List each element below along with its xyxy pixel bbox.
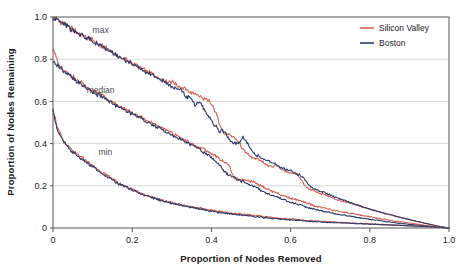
x-tick-label: 0.2	[126, 235, 139, 245]
x-tick-label: 0.8	[364, 235, 377, 245]
legend-label: Boston	[379, 38, 406, 48]
plot-background	[53, 17, 449, 228]
x-tick-label: 0.4	[205, 235, 218, 245]
y-axis-ticks: 00.20.40.60.81.0	[34, 12, 53, 233]
annotation-min: min	[99, 147, 113, 157]
annotation-median: median	[87, 85, 115, 95]
annotation-max: max	[93, 25, 110, 35]
y-tick-label: 0	[42, 223, 47, 233]
x-tick-label: 0	[50, 235, 55, 245]
y-axis-title: Proportion of Nodes Remaining	[5, 48, 16, 195]
line-chart: 00.20.40.60.81.0 00.20.40.60.81.0 maxmed…	[0, 0, 474, 277]
x-axis-ticks: 00.20.40.60.81.0	[50, 228, 455, 245]
y-tick-label: 1.0	[34, 12, 47, 22]
x-tick-label: 0.6	[284, 235, 297, 245]
x-tick-label: 1.0	[443, 235, 456, 245]
y-tick-label: 0.2	[34, 181, 47, 191]
chart-figure: 00.20.40.60.81.0 00.20.40.60.81.0 maxmed…	[0, 0, 474, 277]
x-axis-title: Proportion of Nodes Removed	[180, 253, 321, 264]
y-tick-label: 0.4	[34, 139, 47, 149]
legend-label: Silicon Valley	[379, 23, 430, 33]
y-tick-label: 0.6	[34, 97, 47, 107]
y-tick-label: 0.8	[34, 54, 47, 64]
